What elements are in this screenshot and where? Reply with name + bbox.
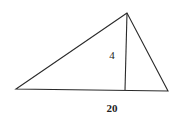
triangle (16, 13, 168, 91)
base-label: 20 (107, 102, 119, 114)
height-label: 4 (109, 49, 115, 61)
altitude-line (125, 13, 127, 90)
triangle-diagram: 4 20 (0, 0, 177, 120)
